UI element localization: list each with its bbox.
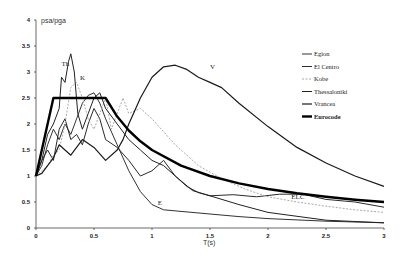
curve-annotations: ThKVEELC (62, 60, 305, 207)
axes: 00.511.522.533.54 00.511.522.53 psa/pga … (22, 17, 387, 247)
x-tick-label: 0.5 (90, 233, 99, 239)
x-tick-label: 0 (34, 233, 38, 239)
x-tick-label: 2 (266, 233, 270, 239)
y-tick-label: 0 (27, 225, 31, 231)
legend-item-label: Vrancea (314, 100, 335, 107)
x-axis-title: T(s) (203, 239, 215, 247)
x-tick-label: 2.5 (322, 233, 331, 239)
y-tick-label: 2 (27, 121, 31, 127)
annotation-label: V (210, 63, 215, 71)
legend-item-label: Kobe (314, 75, 328, 82)
series-lines (36, 54, 384, 223)
y-tick-label: 3.5 (22, 43, 31, 49)
legend-item-label: Egion (314, 50, 330, 57)
y-axis-title: psa/pga (41, 17, 66, 25)
series-el-centro (36, 108, 384, 207)
y-tick-label: 0.5 (22, 199, 31, 205)
annotation-label: K (80, 74, 85, 82)
response-spectra-chart: 00.511.522.533.54 00.511.522.53 psa/pga … (0, 0, 405, 264)
y-ticks: 00.511.522.533.54 (22, 17, 36, 231)
annotation-label: ELC (291, 193, 305, 201)
y-tick-label: 1.5 (22, 147, 31, 153)
y-tick-label: 2.5 (22, 95, 31, 101)
legend-item-label: El Centro (314, 63, 339, 70)
legend-item-label: Eurocode (314, 113, 341, 120)
y-tick-label: 3 (27, 69, 31, 75)
legend: EgionEl CentroKobeThessalonikiVranceaEur… (302, 50, 347, 120)
annotation-label: Th (62, 60, 70, 68)
x-tick-label: 1 (150, 233, 154, 239)
y-tick-label: 4 (27, 17, 31, 23)
y-tick-label: 1 (27, 173, 31, 179)
legend-item-label: Thessaloniki (314, 88, 347, 95)
x-ticks: 00.511.522.53 (34, 228, 386, 239)
x-tick-label: 3 (382, 233, 386, 239)
annotation-label: E (158, 199, 162, 207)
